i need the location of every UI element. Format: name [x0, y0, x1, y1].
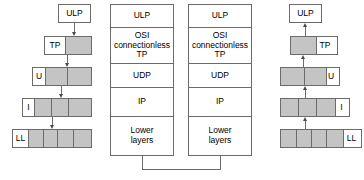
right-ulp-label: ULP: [297, 9, 314, 19]
right-arrowhead-ll-i: [303, 117, 307, 121]
network-connector-right-drop: [220, 155, 221, 170]
left-ulp-label: ULP: [66, 9, 83, 19]
left-pdu-ll-label: LL: [12, 134, 29, 143]
right-pdu-i-seg3: [316, 98, 336, 117]
left-pdu-i-label: I: [22, 103, 35, 112]
stack-right-ip-line1: IP: [215, 97, 225, 107]
right-connector-ll-i: [305, 120, 306, 129]
right-pdu-tp-label: TP: [314, 41, 336, 50]
stack-left-layer-osi-tp: OSI connectionless TP: [110, 27, 174, 64]
right-pdu-ll-label: LL: [342, 134, 361, 143]
left-ulp-box: ULP: [58, 4, 91, 23]
left-pdu-u-seg2: [67, 67, 92, 86]
right-connector-tp-ulp: [305, 26, 306, 36]
right-pdu-ll-seg2: [296, 129, 312, 148]
stack-right-layer-osi-tp: OSI connectionless TP: [188, 27, 252, 64]
left-pdu-i-seg2: [51, 98, 69, 117]
stack-left-layer-ulp: ULP: [110, 4, 174, 28]
stack-left-ulp-line1: ULP: [133, 11, 152, 21]
encapsulation-diagram: ULP TP U I LL: [0, 0, 364, 180]
protocol-stack-left: ULP OSI connectionless TP UDP IP Lower l…: [110, 4, 174, 156]
stack-left-layer-ip: IP: [110, 87, 174, 117]
stack-left-layer-udp: UDP: [110, 63, 174, 88]
stack-left-layer-lower: Lower layers: [110, 116, 174, 156]
right-arrowhead-u-tp: [301, 55, 305, 59]
right-pdu-i-label: I: [334, 103, 349, 112]
stack-right-lower-line2: layers: [207, 136, 232, 146]
right-pdu-i-seg1: [280, 98, 299, 117]
stack-left-ip-line1: IP: [137, 97, 147, 107]
right-ulp-box: ULP: [289, 4, 322, 23]
left-pdu-tp-label: TP: [44, 41, 66, 50]
right-pdu-ll-seg1: [280, 129, 297, 148]
right-arrowhead-i-u: [303, 86, 307, 90]
right-connector-i-u: [305, 89, 306, 98]
left-pdu-i-seg3: [68, 98, 92, 117]
right-pdu-ll-seg3: [311, 129, 327, 148]
stack-left-lower-line2: layers: [129, 136, 154, 146]
right-pdu-u-label: U: [324, 72, 338, 81]
network-connector-left-drop: [142, 155, 143, 170]
stack-left-udp-line1: UDP: [132, 71, 152, 81]
left-pdu-u-label: U: [32, 72, 46, 81]
right-pdu-u-seg1: [280, 67, 305, 86]
left-pdu-ll-seg4: [73, 129, 92, 148]
stack-right-layer-lower: Lower layers: [188, 116, 252, 156]
left-pdu-ll-seg2: [43, 129, 58, 148]
left-pdu-i-seg1: [34, 98, 52, 117]
left-pdu-tp-payload: [65, 36, 92, 55]
right-connector-u-tp: [303, 58, 304, 67]
left-pdu-ll-seg3: [57, 129, 74, 148]
left-pdu-ll-seg1: [28, 129, 44, 148]
network-connector-bottom: [142, 169, 221, 170]
stack-right-layer-ip: IP: [188, 87, 252, 117]
right-arrowhead-tp-ulp: [303, 23, 307, 27]
protocol-stack-right: ULP OSI connectionless TP UDP IP Lower l…: [188, 4, 252, 156]
left-pdu-u-seg1: [45, 67, 68, 86]
right-pdu-tp-payload: [290, 36, 317, 55]
right-pdu-i-seg2: [298, 98, 317, 117]
stack-right-layer-ulp: ULP: [188, 4, 252, 28]
stack-right-udp-line1: UDP: [210, 71, 230, 81]
stack-left-osi-line3: TP: [113, 50, 171, 60]
stack-right-ulp-line1: ULP: [211, 11, 230, 21]
stack-right-osi-line3: TP: [191, 50, 249, 60]
stack-right-layer-udp: UDP: [188, 63, 252, 88]
